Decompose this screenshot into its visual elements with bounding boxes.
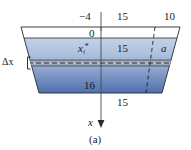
label-top-left-depth: −4	[79, 11, 91, 22]
label-bottom-depth: 16	[84, 80, 95, 91]
label-origin: 0	[89, 28, 95, 39]
tank-air-gap	[21, 27, 180, 38]
representative-slab-group	[28, 60, 173, 66]
hydrostatic-force-tank-figure: −4 15 10 0 xi* 15 a Δx 16 15 x (a)	[0, 0, 191, 150]
axis-arrow-head	[98, 120, 105, 128]
label-top-half-width: 15	[117, 11, 128, 22]
figure-caption: (a)	[89, 134, 101, 145]
label-top-right-width: 10	[164, 11, 175, 22]
label-bottom-half-width: 15	[117, 97, 128, 108]
tank-cross-section-svg	[0, 0, 191, 150]
label-slab-sample-point: xi*	[78, 43, 89, 56]
label-distance-a: a	[161, 43, 167, 54]
label-delta-x: Δx	[2, 57, 13, 67]
slab-point-superscript: *	[85, 42, 89, 51]
label-axis-x: x	[88, 117, 93, 128]
label-mid-half-width: 15	[117, 43, 128, 54]
